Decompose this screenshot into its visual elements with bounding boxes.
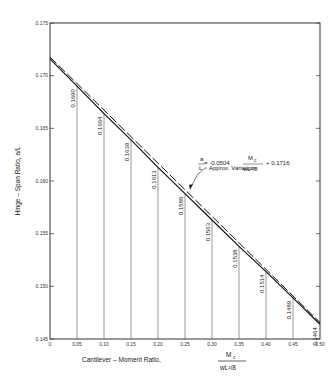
svg-text:wL²/8: wL²/8 xyxy=(242,166,258,172)
svg-text:= -0.0504: = -0.0504 xyxy=(204,160,230,166)
x-frac-num: M xyxy=(226,351,231,358)
x-tick-label: 0.20 xyxy=(153,341,163,347)
x-tick-label: 0.10 xyxy=(99,341,109,347)
x-axis-label: Cantilever – Moment Ratio, M c wL²/8 xyxy=(82,351,246,371)
data-label: 0.1563 xyxy=(205,222,211,241)
x-tick-label: 0.45 xyxy=(288,341,298,347)
x-tick-label: 0.15 xyxy=(126,341,136,347)
value-drop-lines xyxy=(77,86,293,339)
data-label: 0.1489 xyxy=(286,300,292,319)
y-axis-ticks: 0.1450.1500.1550.1600.1650.1700.175 xyxy=(35,20,320,342)
data-label: 0.1613 xyxy=(151,170,157,189)
data-label: 0.1664 xyxy=(97,116,103,135)
data-label: 0.1464 xyxy=(312,327,318,346)
x-tick-label: 0.40 xyxy=(261,341,271,347)
x-axis-ticks: 00.050.100.150.200.250.300.350.400.450.5… xyxy=(49,341,325,347)
y-tick-label: 0.150 xyxy=(35,283,48,289)
x-tick-label: 0.25 xyxy=(180,341,190,347)
svg-text:wL²/8: wL²/8 xyxy=(219,364,236,371)
data-labels: 0.16900.16640.16390.16130.15880.15630.15… xyxy=(70,89,318,346)
y-tick-label: 0.175 xyxy=(35,20,48,26)
y-axis-label: Hinge – Span Ratio, a/L xyxy=(14,146,22,215)
y-tick-label: 0.170 xyxy=(35,72,48,78)
x-tick-label: 0.30 xyxy=(207,341,217,347)
y-tick-label: 0.165 xyxy=(35,125,48,131)
svg-text:Cantilever – Moment Ratio,: Cantilever – Moment Ratio, xyxy=(82,356,161,363)
data-label: 0.1639 xyxy=(124,142,130,161)
svg-text:+ 0.1716: + 0.1716 xyxy=(266,160,290,166)
x-tick-label: 0.05 xyxy=(72,341,82,347)
svg-text:c: c xyxy=(254,157,257,163)
y-tick-label: 0.155 xyxy=(35,230,48,236)
chart: 0.1450.1500.1550.1600.1650.1700.175 00.0… xyxy=(0,0,335,376)
svg-text:M: M xyxy=(248,155,253,161)
x-tick-label: 0 xyxy=(49,341,52,347)
data-label: 0.1538 xyxy=(232,249,238,268)
equation-annotation: Approx. Variation: a L = -0.0504 M c wL²… xyxy=(189,155,290,190)
y-tick-label: 0.160 xyxy=(35,178,48,184)
x-tick-label: 0.35 xyxy=(234,341,244,347)
data-label: 0.1514 xyxy=(259,274,265,293)
y-tick-label: 0.145 xyxy=(35,336,48,342)
data-label: 0.1588 xyxy=(178,196,184,215)
data-label: 0.1690 xyxy=(70,89,76,108)
svg-text:c: c xyxy=(233,354,236,360)
